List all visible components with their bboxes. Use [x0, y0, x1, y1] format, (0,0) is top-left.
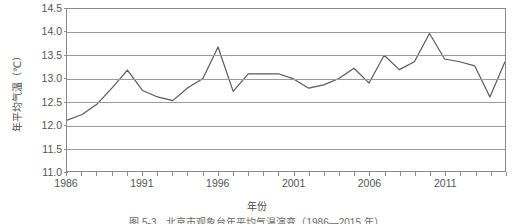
y-axis-tick-label: 12.0	[22, 119, 62, 131]
gridline-y	[67, 55, 505, 56]
x-axis-tick-label: 1991	[130, 177, 153, 189]
x-axis-tick-label: 1986	[54, 177, 77, 189]
x-axis-tick-mark	[415, 172, 416, 176]
figure-caption: 图 5-3 北京市观象台年平均气温演变（1986—2015 年）	[0, 214, 513, 224]
x-axis-tick-mark	[324, 172, 325, 176]
x-axis-tick-mark	[157, 172, 158, 176]
y-axis-tick-label: 14.5	[22, 2, 62, 14]
gridline-y	[67, 149, 505, 150]
x-axis-tick-mark	[491, 172, 492, 176]
x-axis-tick-mark	[263, 172, 264, 176]
gridline-y	[67, 102, 505, 103]
y-axis-tick-label: 11.5	[22, 143, 62, 155]
x-axis-tick-mark	[400, 172, 401, 176]
y-axis-tick-label: 12.5	[22, 96, 62, 108]
x-axis-tick-mark	[233, 172, 234, 176]
x-axis-tick-label: 1996	[206, 177, 229, 189]
y-axis-tick-labels: 11.011.512.012.513.013.514.014.5	[22, 0, 62, 190]
x-axis-tick-mark	[369, 172, 370, 176]
x-axis-tick-mark	[278, 172, 279, 176]
x-axis-tick-mark	[476, 172, 477, 176]
x-axis-tick-label: 2011	[434, 177, 457, 189]
x-axis-tick-label: 2006	[358, 177, 381, 189]
x-axis-tick-labels: 198619911996200120062011	[0, 177, 513, 191]
x-axis-tick-mark	[354, 172, 355, 176]
x-axis-title: 年份	[0, 198, 513, 213]
temperature-line-series	[67, 9, 505, 171]
y-axis-tick-label: 14.0	[22, 25, 62, 37]
x-axis-tick-mark	[506, 172, 507, 176]
x-axis-tick-mark	[81, 172, 82, 176]
gridline-y	[67, 79, 505, 80]
x-axis-tick-mark	[309, 172, 310, 176]
chart-figure: 年平均气温（℃） 11.011.512.012.513.013.514.014.…	[0, 0, 513, 224]
x-axis-tick-mark	[172, 172, 173, 176]
plot-area	[66, 8, 506, 172]
x-axis-tick-label: 2001	[282, 177, 305, 189]
x-axis-tick-mark	[66, 172, 67, 176]
x-axis-tick-mark	[460, 172, 461, 176]
x-axis-tick-mark	[142, 172, 143, 176]
x-axis-tick-mark	[339, 172, 340, 176]
gridline-y	[67, 32, 505, 33]
x-axis-tick-mark	[294, 172, 295, 176]
gridline-y	[67, 126, 505, 127]
y-axis-tick-label: 13.0	[22, 72, 62, 84]
x-axis-tick-mark	[127, 172, 128, 176]
data-line	[67, 34, 505, 121]
x-axis-tick-mark	[96, 172, 97, 176]
x-axis-tick-mark	[430, 172, 431, 176]
x-axis-tick-mark	[112, 172, 113, 176]
x-axis-tick-mark	[248, 172, 249, 176]
y-axis-tick-label: 13.5	[22, 49, 62, 61]
x-axis-tick-mark	[187, 172, 188, 176]
x-axis-tick-mark	[445, 172, 446, 176]
x-axis-tick-mark	[385, 172, 386, 176]
x-axis-tick-mark	[218, 172, 219, 176]
x-axis-tick-mark	[203, 172, 204, 176]
